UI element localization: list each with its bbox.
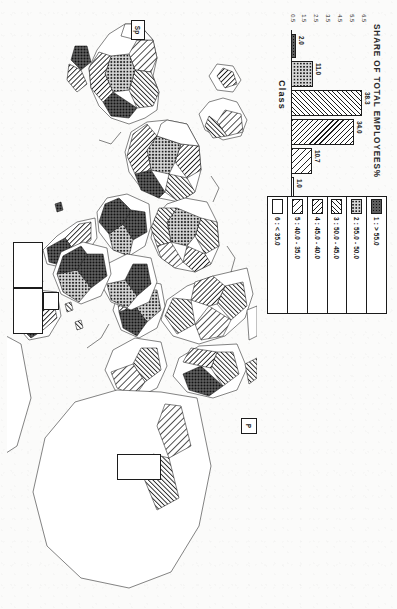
y-tick: 0.5 bbox=[290, 14, 296, 22]
class-legend-row: 4 : 45.0 - 40.0 bbox=[307, 197, 327, 313]
histogram-bar-class-4 bbox=[291, 119, 354, 145]
inset-azores bbox=[13, 242, 43, 288]
histogram-bar-class-3 bbox=[291, 90, 362, 116]
y-tick: 5.5 bbox=[349, 14, 355, 22]
class-swatch-1-icon bbox=[371, 199, 382, 214]
class-swatch-5-icon bbox=[292, 199, 303, 214]
histogram-bar-class-5 bbox=[291, 148, 312, 174]
histogram-bar-value-4: 34.0 bbox=[356, 121, 363, 133]
class-label-5: 5 : 40.0 - 35.0 bbox=[294, 217, 301, 259]
scanned-figure-page: SHARE OF TOTAL EMPLOYEES% 6.5 5.5 4.5 3.… bbox=[0, 0, 397, 609]
rotated-figure-canvas: SHARE OF TOTAL EMPLOYEES% 6.5 5.5 4.5 3.… bbox=[0, 0, 397, 609]
histogram-x-axis-label: Class bbox=[277, 80, 287, 110]
histogram-bar-class-1 bbox=[291, 34, 296, 58]
inset-overseas bbox=[117, 454, 161, 480]
histogram-bar-value-3: 38.3 bbox=[364, 92, 371, 104]
class-label-4: 4 : 45.0 - 40.0 bbox=[314, 217, 321, 259]
histogram-bar-value-6: 1.0 bbox=[296, 179, 303, 188]
class-swatch-4-icon bbox=[312, 199, 323, 214]
histogram-bar-value-5: 10.7 bbox=[314, 150, 321, 162]
class-legend-row: 2 : 55.0 - 50.0 bbox=[346, 197, 366, 313]
class-label-3: 3 : 50.0 - 45.0 bbox=[333, 217, 340, 259]
class-label-2: 2 : 55.0 - 50.0 bbox=[353, 217, 360, 259]
class-swatch-2-icon bbox=[351, 199, 362, 214]
y-tick: 1.5 bbox=[301, 14, 307, 22]
class-swatch-3-icon bbox=[331, 199, 342, 214]
histogram-bar-class-2 bbox=[291, 61, 313, 87]
map-tag-p: P bbox=[241, 418, 257, 434]
histogram-bar-value-1: 2.0 bbox=[298, 36, 305, 45]
class-label-6: 6 : < 35.0 bbox=[274, 217, 281, 246]
class-legend-row: 6 : < 35.0 bbox=[268, 197, 287, 313]
y-tick: 6.5 bbox=[361, 14, 367, 22]
y-tick: 4.5 bbox=[337, 14, 343, 22]
class-legend-row: 1 : > 55.0 bbox=[366, 197, 386, 313]
class-legend-table: 1 : > 55.0 2 : 55.0 - 50.0 3 : 50.0 - 45… bbox=[267, 196, 387, 314]
map-tag-sp-label: Sp bbox=[135, 26, 142, 34]
histogram-plot-area: 2.0 11.0 38.3 34.0 10.7 1.0 bbox=[291, 30, 365, 210]
map-tag-sp: Sp bbox=[131, 20, 145, 40]
class-legend-row: 5 : 40.0 - 35.0 bbox=[287, 197, 307, 313]
map-tag-p-label: P bbox=[246, 424, 253, 428]
inset-canaries bbox=[13, 288, 43, 334]
chart-title: SHARE OF TOTAL EMPLOYEES% bbox=[372, 24, 381, 178]
class-legend-row: 3 : 50.0 - 45.0 bbox=[327, 197, 347, 313]
inset-madeira bbox=[43, 292, 59, 310]
class-label-1: 1 : > 55.0 bbox=[373, 217, 380, 246]
histogram-y-axis: 6.5 5.5 4.5 3.5 2.5 1.5 0.5 bbox=[289, 8, 367, 24]
y-tick: 3.5 bbox=[325, 14, 331, 22]
histogram-bar-value-2: 11.0 bbox=[315, 63, 322, 75]
y-tick: 2.5 bbox=[313, 14, 319, 22]
class-swatch-6-icon bbox=[272, 199, 283, 214]
choropleth-map: Sp P bbox=[7, 6, 257, 602]
